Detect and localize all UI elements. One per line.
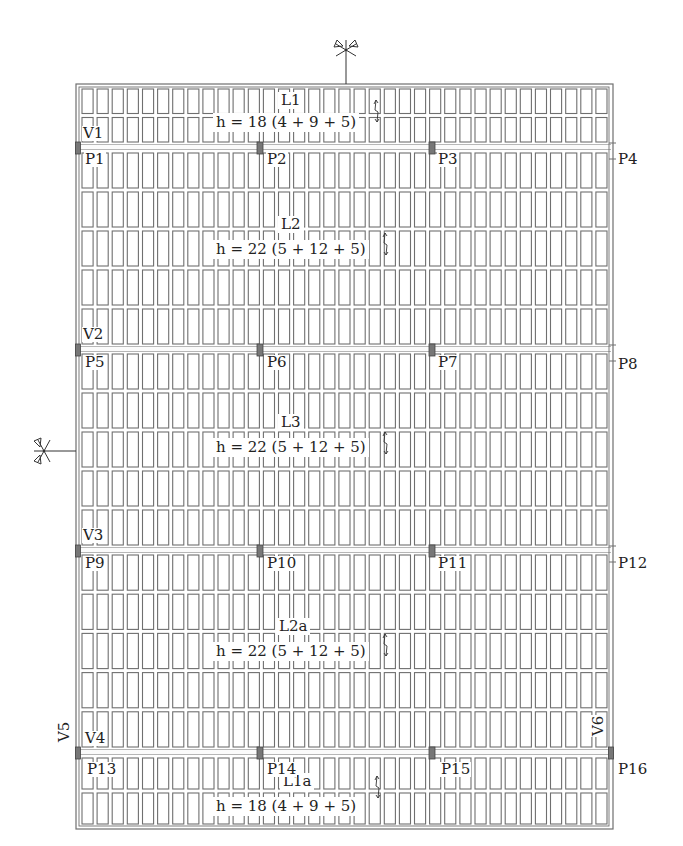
slab-height-L2a: h = 22 (5 + 12 + 5) <box>213 642 369 661</box>
slab-label-L2a: L2a <box>276 618 310 635</box>
slab-label-L1: L1 <box>278 92 304 109</box>
pillar-label-P3: P3 <box>437 152 459 167</box>
beam-label-V3: V3 <box>82 528 104 543</box>
slab-label-L2: L2 <box>278 216 304 233</box>
slab-height-L2: h = 22 (5 + 12 + 5) <box>213 240 369 259</box>
pillar-label-P4: P4 <box>617 152 639 167</box>
pillar-label-P12: P12 <box>617 556 648 571</box>
beam-label-V1: V1 <box>82 126 104 141</box>
pillar-label-P7: P7 <box>437 355 459 370</box>
pillar-label-P14: P14 <box>266 762 297 777</box>
beam-label-V6: V6 <box>591 715 606 737</box>
pillar-label-P8: P8 <box>617 357 639 372</box>
slab-height-L1a: h = 18 (4 + 9 + 5) <box>213 797 359 816</box>
pillar-label-P15: P15 <box>440 762 471 777</box>
pillar-label-P2: P2 <box>266 152 288 167</box>
beam-label-V4: V4 <box>84 731 106 746</box>
pillar-label-P1: P1 <box>84 152 106 167</box>
pillar-label-P6: P6 <box>266 355 288 370</box>
slab-height-L3: h = 22 (5 + 12 + 5) <box>213 438 369 457</box>
pillar-label-P13: P13 <box>86 762 117 777</box>
pillar-label-P11: P11 <box>437 556 468 571</box>
beam-label-V5: V5 <box>57 721 72 743</box>
slab-label-L3: L3 <box>278 414 304 431</box>
pillar-label-P5: P5 <box>84 355 106 370</box>
pillar-label-P9: P9 <box>84 556 106 571</box>
beam-label-V2: V2 <box>82 327 104 342</box>
slab-height-L1: h = 18 (4 + 9 + 5) <box>213 113 359 132</box>
pillar-label-P16: P16 <box>617 762 648 777</box>
pillar-label-P10: P10 <box>266 556 297 571</box>
